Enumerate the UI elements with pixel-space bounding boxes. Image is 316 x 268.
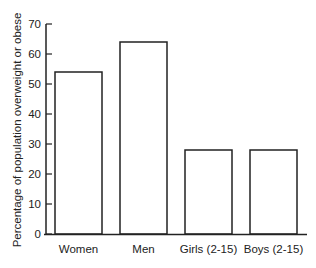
y-tick-label: 50 — [28, 78, 41, 90]
x-tick-label: Boys (2-15) — [244, 243, 304, 255]
y-tick-label: 10 — [28, 198, 41, 210]
y-tick-label: 60 — [28, 48, 41, 60]
y-tick-label: 20 — [28, 168, 41, 180]
bar-women — [55, 72, 102, 234]
bar-men — [120, 42, 167, 234]
y-tick-label: 40 — [28, 108, 41, 120]
x-tick-label: Women — [59, 243, 98, 255]
bar-chart: 010203040506070 WomenMenGirls (2-15)Boys… — [0, 0, 316, 268]
y-axis-label: Percentage of population overweight or o… — [11, 13, 23, 248]
bar-girls-2-15 — [185, 150, 232, 234]
bar-boys-2-15 — [250, 150, 297, 234]
x-tick-label: Men — [132, 243, 154, 255]
x-tick-label: Girls (2-15) — [180, 243, 238, 255]
y-tick-label: 70 — [28, 18, 41, 30]
bars — [55, 42, 297, 234]
y-tick-label: 0 — [35, 228, 41, 240]
y-tick-label: 30 — [28, 138, 41, 150]
x-axis-labels: WomenMenGirls (2-15)Boys (2-15) — [59, 243, 304, 255]
y-axis-ticks: 010203040506070 — [28, 18, 52, 240]
